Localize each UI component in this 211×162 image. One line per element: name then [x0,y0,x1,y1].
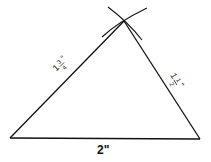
side-left [10,21,124,138]
triangle-diagram: 1 3 4 " 1 1 2 " 2" [0,0,211,162]
side-right [124,21,200,139]
svg-text:": " [177,82,186,89]
svg-text:2: 2 [168,81,175,87]
side-bottom [10,138,200,139]
label-left-side: 1 3 4 " [50,54,72,76]
label-bottom-side: 2" [97,143,109,157]
svg-text:4: 4 [61,64,68,71]
